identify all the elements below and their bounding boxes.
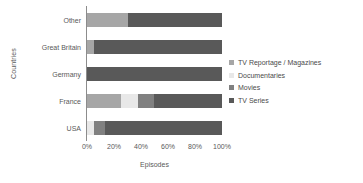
bar-row: France	[87, 94, 222, 108]
category-label: Germany	[52, 70, 81, 77]
x-tick-label: 100%	[213, 143, 231, 150]
legend-label: Movies	[238, 83, 260, 92]
bar-segment	[87, 40, 94, 54]
x-axis-title: Episodes	[87, 161, 222, 168]
legend-swatch-icon	[229, 85, 234, 90]
bar-segment	[87, 13, 128, 27]
plot-area: OtherGreat BritainGermanyFranceUSA	[87, 6, 222, 141]
bar-row: Great Britain	[87, 40, 222, 54]
bar-segment	[138, 94, 154, 108]
x-tick-label: 40%	[134, 143, 148, 150]
bar-segment	[128, 13, 223, 27]
category-label: Great Britain	[42, 43, 81, 50]
bar-segment	[94, 40, 222, 54]
x-tick-label: 0%	[82, 143, 92, 150]
bar-segment	[87, 121, 94, 135]
legend-item[interactable]: TV Series	[229, 96, 361, 105]
legend-swatch-icon	[229, 98, 234, 103]
legend-item[interactable]: Documentaries	[229, 71, 361, 80]
legend-label: Documentaries	[238, 71, 285, 80]
bar-row: Germany	[87, 67, 222, 81]
bar-row: USA	[87, 121, 222, 135]
stacked-bar	[87, 121, 222, 135]
legend-label: TV Series	[238, 96, 269, 105]
legend-item[interactable]: TV Reportage / Magazines	[229, 58, 361, 67]
x-tick-label: 60%	[161, 143, 175, 150]
legend-label: TV Reportage / Magazines	[238, 58, 321, 67]
category-label: Other	[63, 16, 81, 23]
legend-swatch-icon	[229, 73, 234, 78]
stacked-bar	[87, 13, 222, 27]
bar-segment	[87, 67, 222, 81]
stacked-bar-chart: Countries OtherGreat BritainGermanyFranc…	[0, 0, 363, 183]
x-axis-ticks: 0%20%40%60%80%100%	[87, 143, 222, 155]
legend-item[interactable]: Movies	[229, 83, 361, 92]
stacked-bar	[87, 94, 222, 108]
stacked-bar	[87, 40, 222, 54]
bar-segment	[94, 121, 105, 135]
y-axis-title: Countries	[10, 29, 17, 99]
bar-segment	[154, 94, 222, 108]
stacked-bar	[87, 67, 222, 81]
legend-swatch-icon	[229, 60, 234, 65]
bar-segment	[87, 94, 121, 108]
category-label: USA	[67, 124, 81, 131]
chart-legend: TV Reportage / MagazinesDocumentariesMov…	[229, 58, 361, 108]
x-tick-label: 80%	[188, 143, 202, 150]
category-label: France	[59, 97, 81, 104]
bar-segment	[121, 94, 139, 108]
bar-row: Other	[87, 13, 222, 27]
bar-segment	[105, 121, 222, 135]
x-tick-label: 20%	[107, 143, 121, 150]
